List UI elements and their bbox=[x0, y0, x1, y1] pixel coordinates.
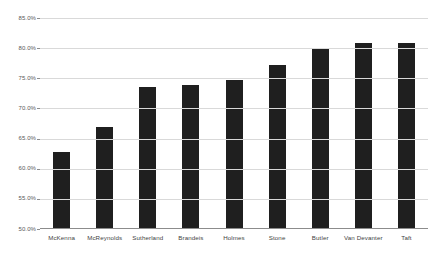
gridline bbox=[40, 169, 428, 170]
bar[interactable] bbox=[182, 85, 199, 229]
y-axis: 85.0%80.0%75.0%70.0%65.0%60.0%55.0%50.0% bbox=[0, 0, 36, 255]
gridline bbox=[40, 48, 428, 49]
y-tick-mark bbox=[37, 199, 40, 200]
gridline bbox=[40, 18, 428, 19]
y-tick-mark bbox=[37, 139, 40, 140]
x-tick-label: McReynolds bbox=[87, 233, 122, 242]
y-tick-label: 50.0% bbox=[18, 226, 36, 233]
y-tick-label: 75.0% bbox=[18, 75, 36, 82]
bar[interactable] bbox=[398, 43, 415, 229]
bar[interactable] bbox=[355, 43, 372, 229]
bar-chart: 85.0%80.0%75.0%70.0%65.0%60.0%55.0%50.0%… bbox=[0, 0, 435, 255]
y-tick-mark bbox=[37, 18, 40, 19]
y-tick-mark bbox=[37, 48, 40, 49]
x-tick-label: Brandeis bbox=[178, 233, 203, 242]
bar[interactable] bbox=[269, 65, 286, 229]
y-tick-label: 55.0% bbox=[18, 195, 36, 202]
plot-area bbox=[40, 18, 428, 229]
y-tick-label: 70.0% bbox=[18, 105, 36, 112]
y-tick-mark bbox=[37, 169, 40, 170]
y-tick-label: 80.0% bbox=[18, 45, 36, 52]
y-tick-label: 60.0% bbox=[18, 165, 36, 172]
gridline bbox=[40, 199, 428, 200]
gridline bbox=[40, 78, 428, 79]
gridline bbox=[40, 108, 428, 109]
bar[interactable] bbox=[226, 80, 243, 230]
x-tick-label: Taft bbox=[401, 233, 411, 242]
x-tick-label: Van Devanter bbox=[344, 233, 383, 242]
x-tick-label: Stone bbox=[269, 233, 286, 242]
x-tick-label: Sutherland bbox=[132, 233, 163, 242]
y-tick-mark bbox=[37, 229, 40, 230]
bars-layer bbox=[40, 18, 428, 229]
y-tick-label: 85.0% bbox=[18, 15, 36, 22]
bar[interactable] bbox=[96, 127, 113, 229]
x-axis-line bbox=[40, 228, 428, 229]
x-axis: McKennaMcReynoldsSutherlandBrandeisHolme… bbox=[40, 233, 428, 247]
x-tick-label: McKenna bbox=[48, 233, 75, 242]
gridline bbox=[40, 139, 428, 140]
bar[interactable] bbox=[53, 152, 70, 229]
y-tick-label: 65.0% bbox=[18, 135, 36, 142]
y-tick-mark bbox=[37, 108, 40, 109]
y-tick-mark bbox=[37, 78, 40, 79]
x-tick-label: Holmes bbox=[223, 233, 245, 242]
x-tick-label: Butler bbox=[312, 233, 329, 242]
